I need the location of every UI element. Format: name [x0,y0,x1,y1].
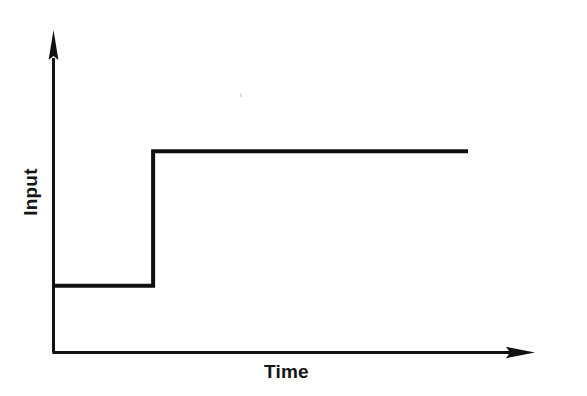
step-input-chart-figure: Time Input [0,0,587,396]
x-axis-label: Time [264,362,309,381]
arrow-up-icon [49,30,59,60]
y-axis-label: Input [21,168,40,215]
arrow-right-icon [506,347,535,358]
chart-plot-area [0,0,587,396]
step-signal-line [52,151,468,285]
scan-speck [240,94,242,97]
